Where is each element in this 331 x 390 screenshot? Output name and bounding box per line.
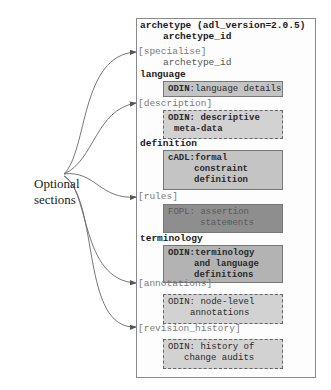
definition-section: definition xyxy=(140,138,197,149)
rules-section: [rules] xyxy=(138,191,178,202)
optional-sections-label: Optional sections xyxy=(34,176,80,208)
description-box: ODIN: descriptivemeta-data xyxy=(163,110,283,139)
rules-box: FOPL: assertionstatements xyxy=(163,204,283,233)
archetype-id: archetype_id xyxy=(163,31,231,42)
specialise-id: archetype_id xyxy=(163,57,231,68)
specialise-section: [specialise] xyxy=(138,46,206,57)
revision-history-section: [revision_history] xyxy=(138,323,241,334)
description-section: [description] xyxy=(138,98,212,109)
terminology-section: terminology xyxy=(140,233,203,244)
definition-box: cADL:formalconstraintdefinition xyxy=(163,150,283,190)
arrow-specialise xyxy=(64,52,136,174)
archetype-header: archetype (adl_version=2.0.5) xyxy=(140,20,305,31)
language-box: ODIN:language details xyxy=(163,81,283,97)
revision-history-box: ODIN: history ofchange audits xyxy=(163,339,283,369)
annotations-box: ODIN: node-levelannotations xyxy=(163,294,283,324)
language-section: language xyxy=(140,69,186,80)
arrow-description xyxy=(64,103,136,174)
annotations-section: [annotations] xyxy=(138,278,212,289)
